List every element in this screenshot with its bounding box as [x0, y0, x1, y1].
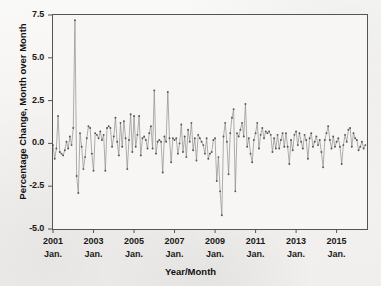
- x-tick-label-month: Jan.: [317, 249, 357, 259]
- x-axis-title: Year/Month: [0, 266, 381, 277]
- x-tick-label-year: 2007: [155, 236, 195, 246]
- x-tick-label-month: Jan.: [33, 249, 73, 259]
- x-tick-label-month: Jan.: [195, 249, 235, 259]
- x-tick-label-month: Jan.: [114, 249, 154, 259]
- x-tick-label-month: Jan.: [74, 249, 114, 259]
- chart-figure: Percentage Change, Month over Month 7.55…: [0, 0, 381, 286]
- x-tick-label-month: Jan.: [155, 249, 195, 259]
- x-tick-label-year: 2003: [74, 236, 114, 246]
- x-tick-label-year: 2009: [195, 236, 235, 246]
- x-tick-label-year: 2005: [114, 236, 154, 246]
- x-tick-label-month: Jan.: [236, 249, 276, 259]
- x-tick-label-month: Jan.: [276, 249, 316, 259]
- x-tick-label-year: 2011: [236, 236, 276, 246]
- x-tick-label-year: 2001: [33, 236, 73, 246]
- x-tick-label-year: 2013: [276, 236, 316, 246]
- x-tick-label-year: 2015: [317, 236, 357, 246]
